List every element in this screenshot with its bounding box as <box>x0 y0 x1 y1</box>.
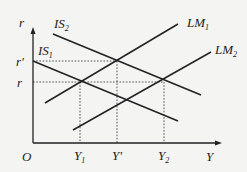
is2-label: IS2 <box>53 16 69 33</box>
tick-y1: Y1 <box>74 148 85 165</box>
is1-label: IS1 <box>37 43 53 60</box>
origin-label: O <box>22 149 32 164</box>
axes <box>33 32 216 143</box>
lm1-label: LM1 <box>186 15 209 32</box>
tick-r: r <box>17 75 23 90</box>
is-lm-diagram: r Y O r' r Y1 Y' Y2 IS2 IS1 LM1 LM2 <box>0 0 247 172</box>
lm2-label: LM2 <box>214 42 237 59</box>
x-axis-arrow-icon <box>215 141 222 146</box>
y-axis-label: r <box>19 15 25 30</box>
y-axis-arrow-icon <box>31 27 36 34</box>
tick-y2: Y2 <box>158 148 169 165</box>
tick-r-prime: r' <box>16 54 24 69</box>
guide-lines <box>33 61 164 143</box>
lm1-curve <box>45 24 178 103</box>
x-axis-label: Y <box>206 149 215 164</box>
tick-y-prime: Y' <box>112 148 122 163</box>
